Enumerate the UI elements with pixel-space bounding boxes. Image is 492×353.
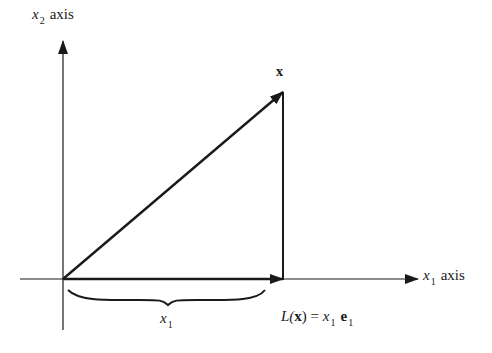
brace-label: x1 xyxy=(160,310,178,327)
vector-x-label: x xyxy=(276,64,283,80)
x1-axis-label: x1axis xyxy=(423,267,465,284)
vector-x-arrow xyxy=(63,92,283,279)
projection-equation: L(x) = x1e1 xyxy=(281,308,358,325)
x2-axis-label: x2axis xyxy=(32,6,74,23)
diagram-canvas xyxy=(0,0,492,353)
brace xyxy=(68,290,265,305)
